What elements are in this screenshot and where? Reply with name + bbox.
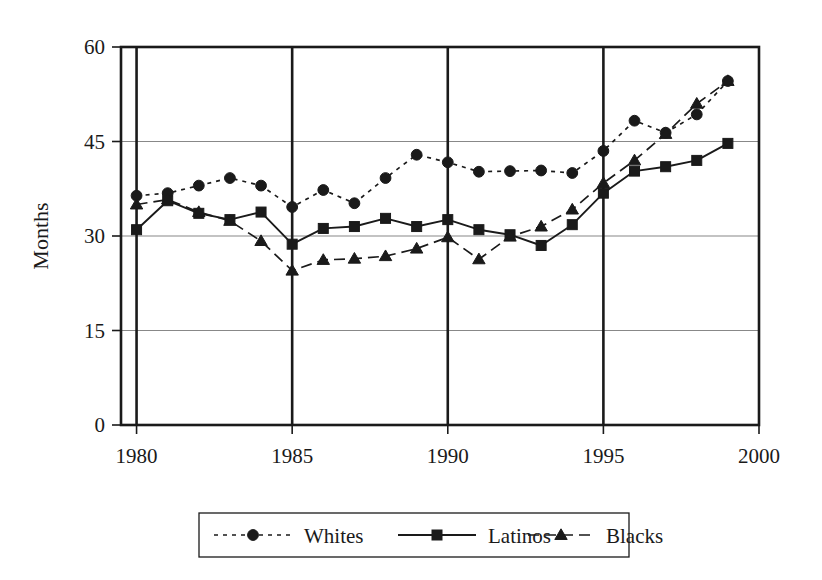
datapoint-latinos-1991 bbox=[474, 225, 484, 235]
datapoint-whites-1998 bbox=[691, 109, 702, 120]
series-latinos bbox=[132, 138, 733, 250]
datapoint-whites-1983 bbox=[225, 173, 236, 184]
datapoint-latinos-1980 bbox=[132, 225, 142, 235]
datapoint-whites-1993 bbox=[536, 165, 547, 176]
datapoint-whites-1986 bbox=[318, 185, 329, 196]
datapoint-latinos-1999 bbox=[723, 138, 733, 148]
datapoint-latinos-1997 bbox=[661, 162, 671, 172]
datapoint-latinos-1984 bbox=[256, 207, 266, 217]
legend-marker-latinos bbox=[432, 530, 442, 540]
datapoint-whites-1990 bbox=[442, 157, 453, 168]
series-blacks bbox=[130, 75, 734, 275]
datapoint-blacks-1998 bbox=[691, 98, 703, 109]
chart-legend: WhitesLatinosBlacks bbox=[199, 513, 663, 557]
datapoint-whites-1994 bbox=[567, 168, 578, 179]
datapoint-whites-1988 bbox=[380, 173, 391, 184]
y-tickmarks bbox=[112, 47, 121, 425]
datapoint-whites-1987 bbox=[349, 198, 360, 209]
datapoint-latinos-1994 bbox=[567, 220, 577, 230]
y-tick-label-15: 15 bbox=[84, 319, 105, 343]
series-group bbox=[130, 75, 734, 275]
series-line-whites bbox=[137, 81, 728, 207]
datapoint-blacks-1991 bbox=[473, 253, 485, 264]
legend-label-latinos: Latinos bbox=[488, 524, 551, 548]
datapoint-whites-1985 bbox=[287, 202, 298, 213]
x-tickmarks bbox=[137, 425, 759, 434]
datapoint-whites-1984 bbox=[256, 180, 267, 191]
datapoint-blacks-1994 bbox=[566, 203, 578, 214]
y-tick-label-0: 0 bbox=[95, 413, 106, 437]
datapoint-blacks-1993 bbox=[535, 220, 547, 231]
x-tick-labels: 19801985199019952000 bbox=[116, 444, 780, 468]
datapoint-latinos-1988 bbox=[381, 213, 391, 223]
x-tick-label-1990: 1990 bbox=[427, 444, 469, 468]
datapoint-latinos-1996 bbox=[630, 166, 640, 176]
datapoint-latinos-1986 bbox=[318, 223, 328, 233]
datapoint-latinos-1995 bbox=[598, 188, 608, 198]
datapoint-whites-1996 bbox=[629, 115, 640, 126]
datapoint-latinos-1985 bbox=[287, 239, 297, 249]
y-axis-title: Months bbox=[28, 202, 53, 269]
y-tick-label-45: 45 bbox=[84, 130, 105, 154]
datapoint-blacks-1995 bbox=[597, 177, 609, 188]
datapoint-whites-1982 bbox=[193, 180, 204, 191]
datapoint-whites-1995 bbox=[598, 146, 609, 157]
legend-label-whites: Whites bbox=[304, 524, 363, 548]
datapoint-latinos-1993 bbox=[536, 240, 546, 250]
datapoint-latinos-1989 bbox=[412, 222, 422, 232]
datapoint-latinos-1990 bbox=[443, 215, 453, 225]
datapoint-latinos-1987 bbox=[349, 222, 359, 232]
y-tick-label-60: 60 bbox=[84, 35, 105, 59]
legend-marker-blacks bbox=[555, 529, 567, 540]
datapoint-whites-1989 bbox=[411, 149, 422, 160]
legend-label-blacks: Blacks bbox=[606, 524, 663, 548]
x-tick-label-1980: 1980 bbox=[116, 444, 158, 468]
x-tick-label-1995: 1995 bbox=[582, 444, 624, 468]
datapoint-whites-1991 bbox=[474, 166, 485, 177]
y-tick-label-30: 30 bbox=[84, 224, 105, 248]
chart-container: 015304560 19801985199019952000 Months Wh… bbox=[0, 0, 822, 580]
datapoint-whites-1992 bbox=[505, 166, 516, 177]
y-tick-labels: 015304560 bbox=[84, 35, 105, 437]
x-tick-label-1985: 1985 bbox=[271, 444, 313, 468]
legend-marker-whites bbox=[248, 530, 259, 541]
x-tick-label-2000: 2000 bbox=[738, 444, 780, 468]
series-line-latinos bbox=[137, 143, 728, 245]
datapoint-latinos-1998 bbox=[692, 155, 702, 165]
line-chart: 015304560 19801985199019952000 Months Wh… bbox=[0, 0, 822, 580]
series-whites bbox=[131, 76, 733, 213]
